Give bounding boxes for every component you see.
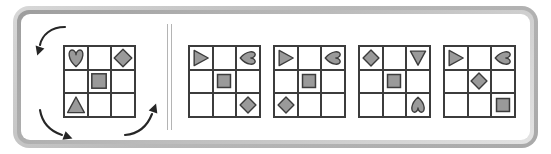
triangle-icon bbox=[192, 49, 210, 67]
cell-r0-c2 bbox=[237, 47, 259, 69]
cell-r1-c1 bbox=[89, 71, 111, 93]
cell-r0-c0 bbox=[275, 47, 297, 69]
puzzle-screen: Matrix rotation reasoning item bbox=[0, 0, 551, 154]
option-grid-2[interactable] bbox=[273, 45, 346, 118]
cell-r0-c2 bbox=[112, 47, 134, 69]
cell-r1-c0 bbox=[275, 71, 297, 93]
option-grid-1[interactable] bbox=[188, 45, 261, 118]
option-grid-4[interactable] bbox=[443, 45, 516, 118]
cell-r1-c1 bbox=[384, 71, 406, 93]
triangle-icon bbox=[409, 49, 427, 67]
cell-r1-c1 bbox=[469, 71, 491, 93]
cell-r1-c2 bbox=[237, 71, 259, 93]
square-icon bbox=[89, 71, 109, 91]
cell-r2-c0 bbox=[360, 94, 382, 116]
puzzle-title: Matrix rotation reasoning item bbox=[0, 0, 1, 1]
diamond-icon bbox=[113, 48, 133, 68]
cell-r1-c2 bbox=[112, 71, 134, 93]
cell-r2-c1 bbox=[214, 94, 236, 116]
diamond-icon bbox=[277, 96, 295, 114]
cell-r0-c1 bbox=[214, 47, 236, 69]
cell-r2-c2 bbox=[492, 94, 514, 116]
cell-r2-c1 bbox=[89, 94, 111, 116]
heart-icon bbox=[324, 49, 342, 67]
triangle-icon bbox=[447, 49, 465, 67]
cell-r0-c2 bbox=[322, 47, 344, 69]
cell-r1-c1 bbox=[214, 71, 236, 93]
cell-r2-c2 bbox=[237, 94, 259, 116]
rotation-arrow-top-left bbox=[35, 23, 73, 53]
diamond-icon bbox=[362, 49, 380, 67]
cell-r0-c0 bbox=[190, 47, 212, 69]
cell-r0-c1 bbox=[384, 47, 406, 69]
cell-r2-c0 bbox=[445, 94, 467, 116]
square-icon bbox=[300, 72, 318, 90]
cell-r2-c0 bbox=[275, 94, 297, 116]
rotation-arrow-bottom-right bbox=[121, 106, 165, 140]
cell-r2-c1 bbox=[384, 94, 406, 116]
panel-frame bbox=[13, 6, 538, 148]
cell-r0-c1 bbox=[89, 47, 111, 69]
square-icon bbox=[215, 72, 233, 90]
cell-r0-c1 bbox=[299, 47, 321, 69]
cell-r2-c2 bbox=[322, 94, 344, 116]
heart-icon bbox=[239, 49, 257, 67]
panel-surface bbox=[21, 14, 530, 140]
cell-r0-c2 bbox=[492, 47, 514, 69]
square-icon bbox=[494, 96, 512, 114]
heart-icon bbox=[409, 96, 427, 114]
cell-r1-c0 bbox=[445, 71, 467, 93]
cell-r2-c2 bbox=[407, 94, 429, 116]
cell-r1-c1 bbox=[299, 71, 321, 93]
cell-r1-c2 bbox=[492, 71, 514, 93]
square-icon bbox=[385, 72, 403, 90]
panel-frame-bevel bbox=[17, 10, 534, 144]
cell-r2-c0 bbox=[190, 94, 212, 116]
cell-r1-c2 bbox=[407, 71, 429, 93]
cell-r1-c0 bbox=[190, 71, 212, 93]
triangle-icon bbox=[277, 49, 295, 67]
diamond-icon bbox=[470, 72, 488, 90]
cell-r1-c0 bbox=[360, 71, 382, 93]
option-grid-3[interactable] bbox=[358, 45, 431, 118]
cell-r2-c1 bbox=[299, 94, 321, 116]
cell-r0-c0 bbox=[360, 47, 382, 69]
cell-r2-c1 bbox=[469, 94, 491, 116]
cell-r0-c2 bbox=[407, 47, 429, 69]
cell-r1-c0 bbox=[65, 71, 87, 93]
diamond-icon bbox=[239, 96, 257, 114]
cell-r0-c0 bbox=[445, 47, 467, 69]
cell-r0-c1 bbox=[469, 47, 491, 69]
cell-r1-c2 bbox=[322, 71, 344, 93]
heart-icon bbox=[494, 49, 512, 67]
rotation-arrow-bottom-left bbox=[35, 106, 73, 140]
